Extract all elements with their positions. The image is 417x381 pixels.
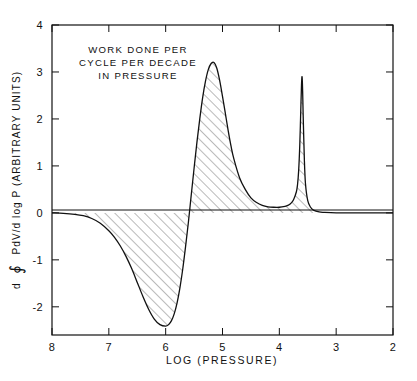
annotation-line-2: CYCLE PER DECADE xyxy=(79,57,197,68)
x-tick-label: 7 xyxy=(106,341,113,353)
x-tick-label: 4 xyxy=(276,341,283,353)
x-tick-label: 6 xyxy=(162,341,169,353)
x-tick-label: 8 xyxy=(49,341,56,353)
chart-canvas: 8765432 -2-101234 LOG (PRESSURE) d ∮ PdV… xyxy=(0,0,417,381)
x-tick-label: 3 xyxy=(333,341,340,353)
y-tick-label: 4 xyxy=(36,19,43,31)
y-tick-label: 0 xyxy=(36,207,43,219)
y-tick-label: 1 xyxy=(36,160,43,172)
y-axis-title-prefix: d xyxy=(11,282,22,289)
x-tick-label: 2 xyxy=(390,341,397,353)
y-tick-label: -2 xyxy=(32,301,43,313)
y-tick-label: -1 xyxy=(32,254,43,266)
y-tick-label: 3 xyxy=(36,66,43,78)
contour-integral-icon: ∮ xyxy=(6,263,26,273)
y-axis-title-suffix: PdV/d log P (ARBITRARY UNITS) xyxy=(11,71,22,255)
x-tick-label: 5 xyxy=(219,341,226,353)
y-tick-label: 2 xyxy=(36,113,43,125)
x-axis-title: LOG (PRESSURE) xyxy=(166,354,278,366)
annotation-line-1: WORK DONE PER xyxy=(88,44,188,55)
annotation-line-3: IN PRESSURE xyxy=(98,70,177,81)
figure-panel: 8765432 -2-101234 LOG (PRESSURE) d ∮ PdV… xyxy=(0,0,417,381)
